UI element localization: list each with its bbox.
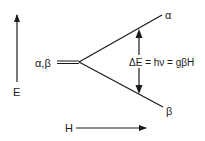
lower-level-line — [79, 62, 163, 107]
transition-arrowhead-up — [136, 29, 143, 38]
transition-equation: ΔE = hν = gβH — [129, 57, 194, 68]
degenerate-level-label: α,β — [35, 57, 51, 69]
upper-level-label: α — [165, 9, 172, 21]
field-axis-label: H — [65, 122, 73, 134]
lower-level-label: β — [166, 105, 172, 117]
diagram-canvas: E α,β α β ΔE = hν = gβH H — [0, 0, 205, 141]
zeeman-diagram: E α,β α β ΔE = hν = gβH H — [0, 0, 205, 141]
upper-level-line — [79, 15, 162, 62]
energy-axis-label: E — [13, 86, 20, 98]
